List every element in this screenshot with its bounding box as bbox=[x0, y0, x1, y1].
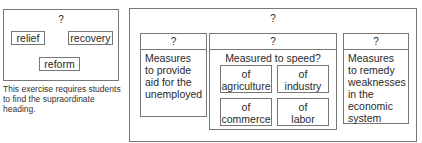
item-label: reform bbox=[44, 58, 74, 70]
left-diagram: ? relief recovery reform bbox=[3, 9, 119, 81]
column-recovery: ? Measured to speed? of agriculture of i… bbox=[209, 33, 337, 130]
caption: This exercise requires students to find … bbox=[3, 84, 121, 114]
column-relief: ? Measures to provide aid for the unempl… bbox=[140, 33, 207, 117]
column-text: Measures to provide aid for the unemploy… bbox=[145, 52, 202, 100]
cell-labor: of labor bbox=[277, 98, 329, 126]
left-top-label: ? bbox=[4, 14, 118, 26]
column-title: Measured to speed? bbox=[210, 52, 336, 64]
right-top-label: ? bbox=[130, 13, 416, 25]
item-recovery: recovery bbox=[68, 31, 113, 45]
item-relief: relief bbox=[11, 31, 45, 45]
cell-agriculture: of agriculture bbox=[220, 65, 272, 93]
right-diagram: ? ? Measures to provide aid for the unem… bbox=[129, 8, 417, 142]
column-reform: ? Measures to remedy weaknesses in the e… bbox=[343, 33, 409, 124]
item-label: relief bbox=[17, 32, 40, 44]
column-text: Measures to remedy weaknesses in the eco… bbox=[348, 52, 406, 124]
item-label: recovery bbox=[70, 32, 110, 44]
column-header: ? bbox=[141, 34, 206, 50]
column-header: ? bbox=[344, 34, 408, 50]
cell-industry: of industry bbox=[277, 65, 329, 93]
cell-commerce: of commerce bbox=[220, 98, 272, 126]
column-header: ? bbox=[210, 34, 336, 50]
item-reform: reform bbox=[39, 57, 80, 71]
